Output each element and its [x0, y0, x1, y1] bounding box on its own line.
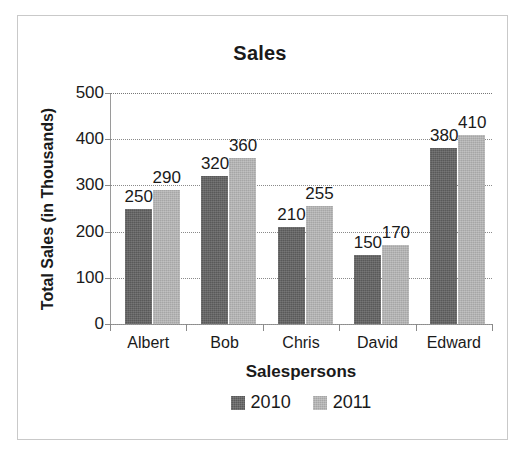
bar-group: 250290 — [125, 93, 180, 324]
bar-2011-david[interactable] — [382, 245, 409, 324]
x-axis-tick-mark — [186, 324, 187, 331]
gridline — [110, 324, 492, 325]
data-label: 255 — [297, 184, 343, 204]
bar-group: 320360 — [201, 93, 256, 324]
legend-label: 2010 — [251, 392, 291, 413]
y-axis-tick-label: 0 — [44, 314, 104, 334]
data-label: 290 — [144, 168, 190, 188]
data-label: 410 — [449, 113, 495, 133]
y-axis-tick-label: 500 — [44, 83, 104, 103]
bar-2011-albert[interactable] — [153, 190, 180, 324]
bar-2010-chris[interactable] — [278, 227, 305, 324]
bar-group: 210255 — [278, 93, 333, 324]
y-axis-tick-label: 300 — [44, 175, 104, 195]
data-label: 170 — [373, 223, 419, 243]
y-axis-tick-mark — [105, 232, 111, 233]
plot-area: 250290320360210255150170380410 — [110, 93, 492, 324]
bar-group: 380410 — [430, 93, 485, 324]
legend-swatch-icon — [313, 396, 327, 410]
x-axis-title: Salespersons — [110, 362, 492, 382]
chart-legend: 20102011 — [110, 392, 492, 413]
x-axis-tick-mark — [263, 324, 264, 331]
bar-2011-edward[interactable] — [458, 135, 485, 324]
y-axis-tick-label: 200 — [44, 222, 104, 242]
x-axis-tick-mark — [110, 324, 111, 331]
bar-2010-bob[interactable] — [201, 176, 228, 324]
chart-title: Sales — [0, 42, 520, 65]
x-axis-tick-mark — [416, 324, 417, 331]
bar-2010-david[interactable] — [354, 255, 381, 324]
legend-item-2011[interactable]: 2011 — [313, 392, 372, 413]
legend-swatch-icon — [231, 396, 245, 410]
x-axis-tick-mark — [492, 324, 493, 331]
bar-2010-albert[interactable] — [125, 209, 152, 325]
bar-group: 150170 — [354, 93, 409, 324]
y-axis-tick-mark — [105, 139, 111, 140]
y-axis-tick-label: 100 — [44, 268, 104, 288]
x-axis-tick-mark — [339, 324, 340, 331]
y-axis-tick-labels: 5004003002001000 — [38, 93, 104, 324]
bar-2010-edward[interactable] — [430, 148, 457, 324]
y-axis-tick-label: 400 — [44, 129, 104, 149]
bar-2011-bob[interactable] — [229, 158, 256, 324]
y-axis-tick-mark — [105, 278, 111, 279]
legend-item-2010[interactable]: 2010 — [231, 392, 291, 413]
data-label: 360 — [220, 136, 266, 156]
bar-2011-chris[interactable] — [306, 206, 333, 324]
y-axis-tick-mark — [105, 185, 111, 186]
legend-label: 2011 — [333, 392, 372, 413]
y-axis-tick-mark — [105, 93, 111, 94]
x-axis-category-label: Edward — [409, 334, 499, 352]
